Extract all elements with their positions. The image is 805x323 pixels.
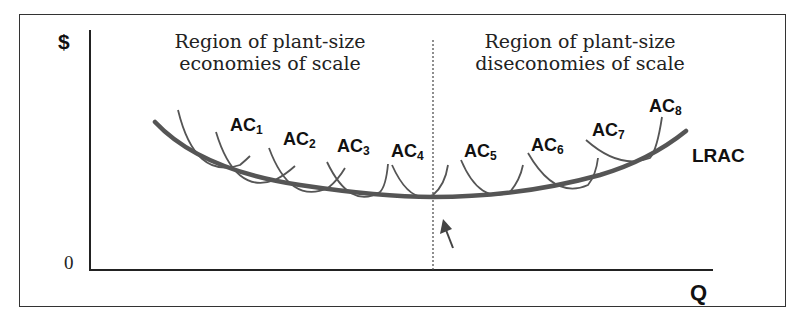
ac7-label: AC7 xyxy=(592,120,625,142)
y-axis-label: $ xyxy=(58,30,70,54)
diseconomies-region-label: Region of plant-size diseconomies of sca… xyxy=(460,30,700,74)
ac8-label: AC8 xyxy=(649,96,682,118)
ac1-label: AC1 xyxy=(230,115,263,137)
ac2-label: AC2 xyxy=(283,129,316,151)
economies-region-label: Region of plant-size economies of scale xyxy=(130,30,410,74)
origin-label: 0 xyxy=(64,252,74,274)
ac5-label: AC5 xyxy=(464,141,497,163)
ac6-label: AC6 xyxy=(531,135,564,157)
ac3-label: AC3 xyxy=(337,136,370,158)
ac4-label: AC4 xyxy=(391,141,424,163)
ac5-curve xyxy=(461,160,523,195)
x-axis-label: Q xyxy=(690,280,707,306)
economies-region-line1: Region of plant-size xyxy=(130,30,410,52)
lrac-label: LRAC xyxy=(692,145,745,167)
economies-region-line2: economies of scale xyxy=(130,52,410,74)
diseconomies-region-line1: Region of plant-size xyxy=(460,30,700,52)
diseconomies-region-line2: diseconomies of scale xyxy=(460,52,700,74)
ac4b-curve xyxy=(392,165,448,197)
minimum-pointer-arrow-icon xyxy=(440,219,453,248)
